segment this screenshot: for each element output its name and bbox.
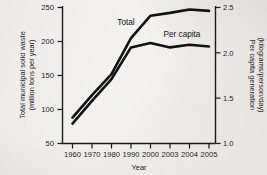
x-axis-ticks xyxy=(73,144,210,149)
right-tick-label-1-0: 1.0 xyxy=(223,139,234,148)
y2-axis-title-line2: (kilograms/person/day) xyxy=(257,37,266,112)
right-tick-label-2-5: 2.5 xyxy=(223,3,234,12)
left-tick-label-100: 100 xyxy=(41,105,54,114)
chart-svg: 50 100 150 200 250 1.0 1.5 2.0 2.5 xyxy=(0,0,267,175)
left-and-bottom-axis xyxy=(63,6,216,144)
x-axis-title: Year xyxy=(132,163,147,172)
x-tick-label-2004: 2004 xyxy=(181,150,198,159)
right-axis-tick-labels: 1.0 1.5 2.0 2.5 xyxy=(223,3,234,148)
x-tick-label-2000: 2000 xyxy=(142,150,159,159)
x-tick-label-2003: 2003 xyxy=(162,150,179,159)
right-tick-label-2-0: 2.0 xyxy=(223,49,234,58)
y2-axis-title-line1: Per capita generation xyxy=(248,40,257,110)
x-tick-label-1980: 1980 xyxy=(103,150,120,159)
left-tick-label-200: 200 xyxy=(41,37,54,46)
series-annotation-total: Total xyxy=(117,18,134,27)
left-tick-label-250: 250 xyxy=(41,3,54,12)
left-tick-label-50: 50 xyxy=(46,139,54,148)
x-tick-label-1990: 1990 xyxy=(123,150,140,159)
left-axis-tick-labels: 50 100 150 200 250 xyxy=(41,3,54,148)
left-tick-label-150: 150 xyxy=(41,71,54,80)
y-axis-title-line2: (million tons per year) xyxy=(27,39,36,110)
page-bottom-partial-text xyxy=(6,166,126,175)
left-axis-ticks xyxy=(58,8,63,144)
x-tick-label-1970: 1970 xyxy=(84,150,101,159)
x-tick-label-1960: 1960 xyxy=(64,150,81,159)
series-annotation-per-capita: Per capita xyxy=(164,30,201,39)
y-axis-title-line1: Total municipal solid waste xyxy=(18,31,27,119)
x-axis-tick-labels: 1960 1970 1980 1990 2000 2003 2004 2005 xyxy=(64,150,217,159)
x-tick-label-2005: 2005 xyxy=(201,150,218,159)
series-line-per-capita xyxy=(73,43,210,124)
right-axis-ticks xyxy=(216,8,221,144)
chart-figure: 50 100 150 200 250 1.0 1.5 2.0 2.5 xyxy=(0,0,267,175)
right-tick-label-1-5: 1.5 xyxy=(223,94,234,103)
